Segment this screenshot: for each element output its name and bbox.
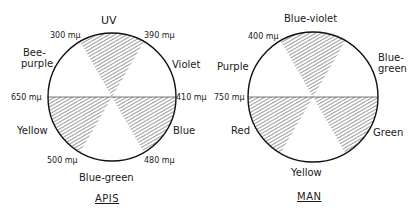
man-label-green-top: green — [378, 63, 407, 74]
man-sector-blue-violet — [281, 32, 346, 97]
man-label-blue: Blue- — [378, 52, 404, 63]
man-label-red: Red — [231, 125, 250, 136]
apis-wavelength-480: 480 mμ — [144, 155, 175, 166]
man-sector-green — [313, 97, 378, 153]
man-label-blue-violet: Blue-violet — [284, 13, 337, 24]
apis-wavelength-300: 300 mμ — [50, 30, 81, 41]
man-color-wheel — [248, 32, 378, 162]
man-label-yellow: Yellow — [291, 167, 322, 178]
man-title: MAN — [297, 191, 321, 202]
apis-wavelength-390: 390 mμ — [144, 30, 175, 41]
apis-sector-uv — [80, 33, 144, 97]
apis-color-wheel — [48, 33, 176, 161]
apis-wavelength-500: 500 mμ — [47, 155, 78, 166]
man-wavelength-400: 400 mμ — [248, 31, 279, 42]
apis-label-purple: purple — [21, 58, 53, 69]
apis-label-violet: Violet — [172, 59, 200, 70]
apis-title: APIS — [95, 193, 119, 204]
apis-wavelength-650: 650 mμ — [11, 92, 42, 103]
man-sector-red — [248, 97, 313, 153]
apis-label-bee: Bee- — [23, 47, 46, 58]
man-label-purple: Purple — [217, 61, 249, 72]
man-wavelength-750: 750 mμ — [214, 92, 245, 103]
man-label-green: Green — [373, 127, 403, 138]
apis-label-blue: Blue — [173, 125, 195, 136]
apis-label-blue-green: Blue-green — [79, 172, 134, 183]
apis-sector-yellow — [48, 97, 112, 152]
apis-wavelength-410: 410 mμ — [176, 92, 207, 103]
apis-label-uv: UV — [101, 15, 117, 26]
apis-label-yellow: Yellow — [17, 125, 48, 136]
apis-sector-blue — [112, 97, 176, 152]
